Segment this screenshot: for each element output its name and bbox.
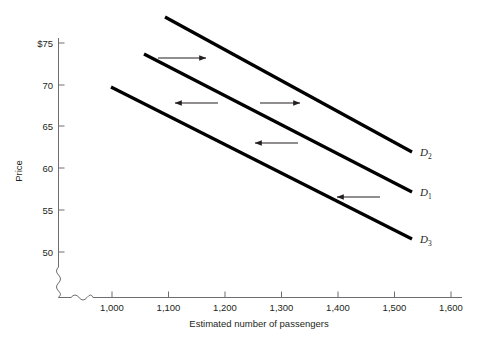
- chart-canvas: $75 70 65 60 55 50 1,000 1,100 1,200 1,3…: [0, 0, 482, 344]
- demand-curve-chart: $75 70 65 60 55 50 1,000 1,100 1,200 1,3…: [0, 0, 482, 344]
- y-axis-title: Price: [13, 160, 24, 182]
- x-tick-label-1300: 1,300: [270, 302, 294, 313]
- curve-label-d3: D3: [419, 233, 432, 248]
- y-axis-break-icon: [57, 267, 61, 297]
- x-tick-label-1600: 1,600: [439, 302, 463, 313]
- curve-label-d2-sub: 2: [428, 152, 432, 161]
- curve-labels-group: D2 D1 D3: [419, 146, 432, 248]
- y-tick-label-55: 55: [42, 205, 53, 216]
- x-tick-label-1200: 1,200: [213, 302, 237, 313]
- curve-label-d2-letter: D: [419, 146, 428, 158]
- curve-label-d1: D1: [419, 186, 432, 201]
- y-tick-label-75: $75: [37, 38, 53, 49]
- x-tick-label-1500: 1,500: [383, 302, 407, 313]
- y-tick-label-70: 70: [42, 80, 53, 91]
- y-tick-group: $75 70 65 60 55 50: [37, 38, 64, 258]
- y-tick-label-60: 60: [42, 163, 53, 174]
- x-tick-group: 1,000 1,100 1,200 1,300 1,400 1,500 1,60…: [100, 292, 463, 314]
- curve-label-d3-sub: 3: [428, 239, 432, 248]
- x-axis-title: Estimated number of passengers: [189, 318, 329, 329]
- demand-curves-group: [111, 17, 412, 239]
- curve-label-d1-letter: D: [419, 186, 428, 198]
- axis-group: [57, 38, 463, 300]
- x-axis-break-icon: [71, 295, 93, 300]
- curve-label-d2: D2: [419, 146, 432, 161]
- y-tick-label-50: 50: [42, 247, 53, 258]
- curve-label-d1-sub: 1: [428, 192, 432, 201]
- y-tick-label-65: 65: [42, 121, 53, 132]
- demand-curve-d3: [111, 87, 412, 239]
- curve-label-d3-letter: D: [419, 233, 428, 245]
- x-tick-label-1400: 1,400: [326, 302, 350, 313]
- x-tick-label-1000: 1,000: [100, 302, 124, 313]
- x-tick-label-1100: 1,100: [157, 302, 181, 313]
